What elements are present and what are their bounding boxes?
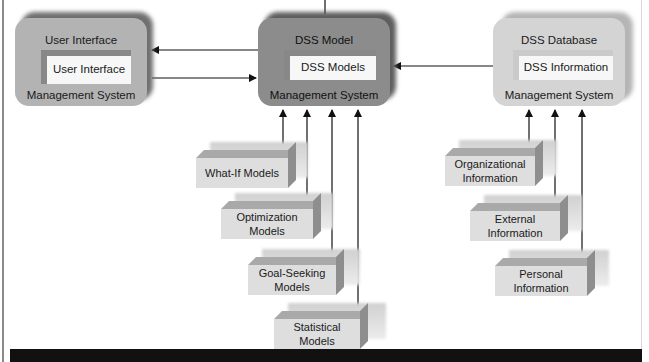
db-system-footer: Management System <box>493 89 625 101</box>
block-side <box>535 140 543 186</box>
ui-system-footer: Management System <box>15 89 147 101</box>
dss-model-management-system: DSS Model DSS Models Management System <box>258 12 398 108</box>
block-side <box>560 195 568 241</box>
user-interface-management-system: User Interface User Interface Management… <box>15 12 155 108</box>
personal-information-label: Personal Information <box>495 266 587 296</box>
block-side <box>288 142 296 188</box>
db-system-title: DSS Database <box>493 34 625 46</box>
block-top <box>495 258 595 266</box>
block-top <box>196 150 296 158</box>
model-system-inner: DSS Models <box>284 50 376 80</box>
goal-seeking-models-label: Goal-Seeking Models <box>248 265 336 295</box>
db-system-inner: DSS Information <box>513 50 613 80</box>
bottom-black-bar <box>10 349 642 362</box>
block-side <box>587 250 595 296</box>
block-top <box>248 257 344 265</box>
block-side <box>360 303 368 349</box>
block-top <box>445 148 543 156</box>
organizational-information-label: Organizational Information <box>445 156 535 186</box>
block-top <box>221 201 321 209</box>
ui-system-title: User Interface <box>15 34 147 46</box>
external-information-label: External Information <box>470 211 560 241</box>
dss-database-management-system: DSS Database DSS Information Management … <box>493 12 638 108</box>
what-if-models-label: What-If Models <box>196 158 288 188</box>
block-side <box>336 249 344 295</box>
block-top <box>470 203 568 211</box>
model-system-footer: Management System <box>258 89 390 101</box>
block-side <box>313 193 321 239</box>
block-top <box>274 311 368 319</box>
model-system-title: DSS Model <box>258 34 390 46</box>
ui-system-inner: User Interface <box>41 50 131 84</box>
optimization-models-label: Optimization Models <box>221 209 313 239</box>
statistical-models-label: Statistical Models <box>274 319 360 349</box>
